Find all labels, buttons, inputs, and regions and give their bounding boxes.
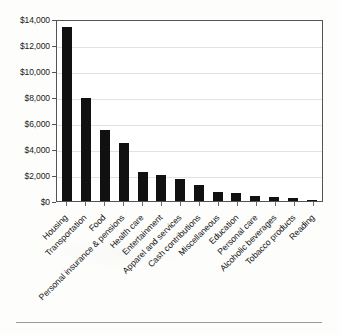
- y-axis-tick-label: $2,000: [0, 171, 50, 181]
- y-axis-tick-label: $10,000: [0, 67, 50, 77]
- bar: [194, 185, 204, 201]
- x-axis-tick-mark: [294, 202, 295, 206]
- x-axis-tick-mark: [180, 202, 181, 206]
- bar: [100, 130, 110, 201]
- bar: [269, 197, 279, 201]
- x-axis-tick-mark: [275, 202, 276, 206]
- x-axis-tick-mark: [199, 202, 200, 206]
- bar-chart-figure: $0$2,000$4,000$6,000$8,000$10,000$12,000…: [0, 0, 340, 335]
- y-axis-tick-label: $8,000: [0, 93, 50, 103]
- bar: [213, 192, 223, 201]
- x-axis-tick-mark: [66, 202, 67, 206]
- y-axis-tick-label: $12,000: [0, 41, 50, 51]
- x-axis-tick-mark: [142, 202, 143, 206]
- bottom-divider-rule: [16, 322, 322, 323]
- bar: [119, 143, 129, 201]
- y-axis-tick-mark: [52, 202, 56, 203]
- x-axis-tick-mark: [123, 202, 124, 206]
- y-axis-tick-label: $14,000: [0, 15, 50, 25]
- bar: [288, 198, 298, 201]
- bar: [175, 179, 185, 201]
- bar: [81, 98, 91, 201]
- x-axis-tick-mark: [218, 202, 219, 206]
- x-axis-tick-mark: [313, 202, 314, 206]
- y-axis-tick-label: $6,000: [0, 119, 50, 129]
- x-axis-tick-mark: [104, 202, 105, 206]
- bar: [307, 200, 317, 202]
- x-axis-tick-mark: [85, 202, 86, 206]
- bar: [231, 193, 241, 201]
- bar-series: [57, 21, 322, 201]
- plot-area: [56, 20, 323, 202]
- bar: [156, 175, 166, 201]
- bar: [250, 196, 260, 201]
- y-axis-tick-label: $4,000: [0, 145, 50, 155]
- x-axis-tick-mark: [237, 202, 238, 206]
- x-axis-tick-mark: [256, 202, 257, 206]
- bar: [138, 172, 148, 201]
- x-axis-tick-mark: [161, 202, 162, 206]
- y-axis-tick-label: $0: [0, 197, 50, 207]
- bar: [62, 27, 72, 201]
